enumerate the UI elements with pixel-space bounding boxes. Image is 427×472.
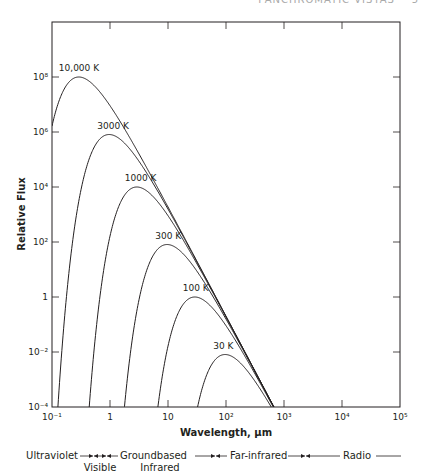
blackbody-curve	[52, 77, 305, 467]
blackbody-curves	[52, 77, 305, 467]
band-groundbased: Groundbased	[120, 450, 187, 461]
x-tick-label: 10⁵	[392, 412, 407, 422]
x-tick-label: 1	[107, 412, 113, 422]
curve-labels: 10,000 K3000 K1000 K300 K100 K30 K	[59, 63, 235, 351]
y-tick-label: 10⁻⁴	[28, 402, 48, 412]
y-tick-label: 10⁴	[33, 182, 48, 192]
y-tick-label: 1	[42, 292, 48, 302]
band-ultraviolet: Ultraviolet	[26, 450, 78, 461]
curve-label: 10,000 K	[59, 63, 100, 73]
spectral-bands: UltravioletVisibleGroundbasedInfraredFar…	[26, 450, 401, 472]
x-tick-label: 10⁴	[334, 412, 349, 422]
blackbody-curve	[55, 135, 306, 467]
blackbody-curve	[86, 187, 306, 467]
curve-label: 30 K	[213, 341, 234, 351]
band-infrared: Infrared	[140, 462, 179, 472]
band-radio: Radio	[343, 450, 371, 461]
y-tick-label: 10⁸	[33, 72, 48, 82]
band-far-infrared: Far-infrared	[230, 450, 287, 461]
blackbody-chart: 10⁻¹11010²10³10⁴10⁵ 10⁻⁴10⁻²110²10⁴10⁶10…	[0, 0, 427, 472]
x-tick-label: 10²	[218, 412, 233, 422]
y-tick-label: 10⁻²	[28, 347, 48, 357]
y-tick-label: 10⁶	[33, 127, 48, 137]
x-axis-ticks: 10⁻¹11010²10³10⁴10⁵	[42, 22, 408, 422]
curve-label: 3000 K	[97, 121, 130, 131]
curve-label: 300 K	[155, 231, 182, 241]
x-tick-label: 10³	[276, 412, 291, 422]
x-axis-title: Wavelength, µm	[180, 427, 272, 438]
x-tick-label: 10	[162, 412, 174, 422]
y-tick-label: 10²	[33, 237, 48, 247]
curve-label: 1000 K	[125, 173, 158, 183]
y-axis-title: Relative Flux	[16, 177, 27, 251]
curve-label: 100 K	[183, 283, 210, 293]
x-tick-label: 10⁻¹	[42, 412, 62, 422]
band-visible: Visible	[84, 462, 117, 472]
